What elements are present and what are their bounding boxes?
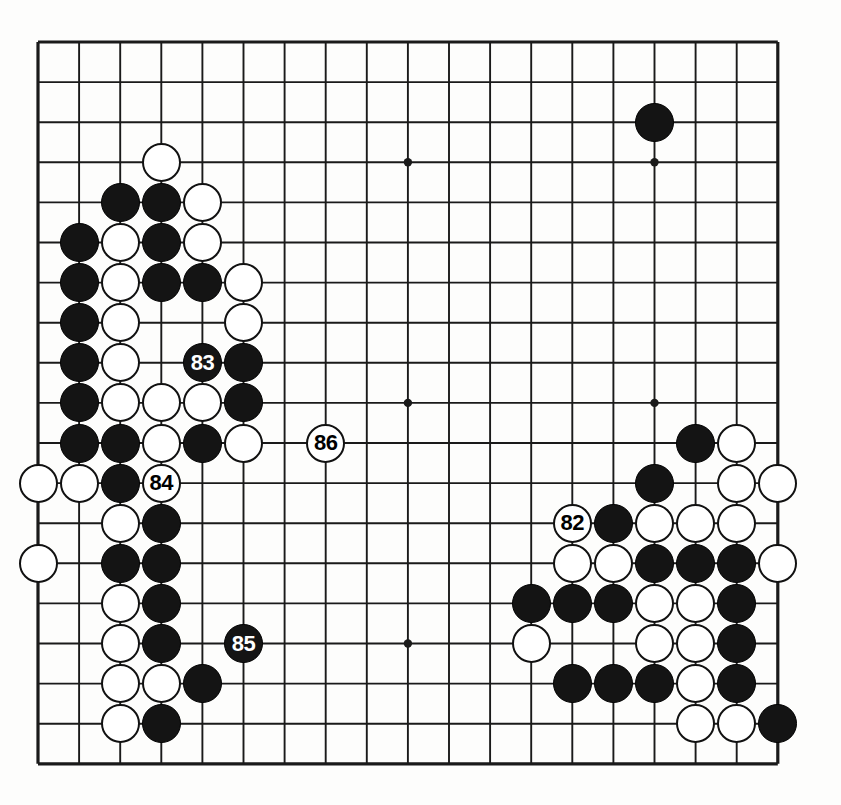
stone-black[interactable] <box>635 664 674 703</box>
star-point <box>650 399 658 407</box>
stone-black[interactable] <box>635 544 674 583</box>
stone-black[interactable] <box>101 544 140 583</box>
stone-white[interactable] <box>101 223 140 262</box>
numbered-stone-83[interactable]: 83 <box>183 343 222 382</box>
go-diagram-root: 8386848285 <box>0 0 841 805</box>
stone-white[interactable] <box>101 624 140 663</box>
stone-white[interactable] <box>635 584 674 623</box>
stone-white[interactable] <box>758 544 797 583</box>
stone-white[interactable] <box>101 664 140 703</box>
stone-white[interactable] <box>101 303 140 342</box>
stone-black[interactable] <box>60 303 99 342</box>
numbered-stone-86[interactable]: 86 <box>306 424 345 463</box>
stone-black[interactable] <box>142 183 181 222</box>
stone-black[interactable] <box>717 544 756 583</box>
stone-white[interactable] <box>676 704 715 743</box>
stone-black[interactable] <box>101 424 140 463</box>
stone-black[interactable] <box>676 424 715 463</box>
stone-white[interactable] <box>60 464 99 503</box>
stone-move-number: 86 <box>308 426 343 461</box>
stone-white[interactable] <box>142 664 181 703</box>
stone-black[interactable] <box>676 544 715 583</box>
stone-black[interactable] <box>594 584 633 623</box>
stone-white[interactable] <box>142 143 181 182</box>
stone-black[interactable] <box>142 223 181 262</box>
stone-white[interactable] <box>717 504 756 543</box>
stone-black[interactable] <box>183 664 222 703</box>
stone-black[interactable] <box>553 584 592 623</box>
stone-white[interactable] <box>224 424 263 463</box>
stone-move-number: 85 <box>225 625 262 662</box>
stone-black[interactable] <box>594 664 633 703</box>
stone-black[interactable] <box>183 424 222 463</box>
stone-move-number: 82 <box>555 506 590 541</box>
stone-black[interactable] <box>60 343 99 382</box>
stone-black[interactable] <box>717 624 756 663</box>
stone-black[interactable] <box>553 664 592 703</box>
star-point <box>650 158 658 166</box>
stone-white[interactable] <box>717 424 756 463</box>
stone-black[interactable] <box>594 504 633 543</box>
stone-black[interactable] <box>142 584 181 623</box>
stone-black[interactable] <box>101 464 140 503</box>
stone-move-number: 83 <box>184 344 221 381</box>
go-board[interactable]: 8386848285 <box>0 0 841 805</box>
stone-black[interactable] <box>142 544 181 583</box>
star-point <box>404 639 412 647</box>
stone-white[interactable] <box>717 464 756 503</box>
stone-black[interactable] <box>101 183 140 222</box>
stone-black[interactable] <box>717 584 756 623</box>
stone-white[interactable] <box>553 544 592 583</box>
numbered-stone-84[interactable]: 84 <box>142 464 181 503</box>
stone-white[interactable] <box>635 624 674 663</box>
stone-white[interactable] <box>101 263 140 302</box>
stone-white[interactable] <box>676 504 715 543</box>
numbered-stone-85[interactable]: 85 <box>224 624 263 663</box>
stone-black[interactable] <box>512 584 551 623</box>
numbered-stone-82[interactable]: 82 <box>553 504 592 543</box>
star-point <box>404 399 412 407</box>
stone-white[interactable] <box>101 383 140 422</box>
stone-white[interactable] <box>224 303 263 342</box>
stone-black[interactable] <box>60 223 99 262</box>
stone-black[interactable] <box>60 383 99 422</box>
stone-white[interactable] <box>676 584 715 623</box>
stone-white[interactable] <box>224 263 263 302</box>
stone-white[interactable] <box>594 544 633 583</box>
stone-black[interactable] <box>717 664 756 703</box>
stone-black[interactable] <box>142 504 181 543</box>
stone-white[interactable] <box>19 464 58 503</box>
stone-black[interactable] <box>635 464 674 503</box>
stone-white[interactable] <box>101 343 140 382</box>
stone-move-number: 84 <box>144 466 179 501</box>
stone-black[interactable] <box>635 103 674 142</box>
stone-white[interactable] <box>758 464 797 503</box>
stone-white[interactable] <box>183 183 222 222</box>
stone-white[interactable] <box>635 504 674 543</box>
stone-black[interactable] <box>142 263 181 302</box>
stone-white[interactable] <box>142 424 181 463</box>
stone-black[interactable] <box>183 263 222 302</box>
stone-black[interactable] <box>60 263 99 302</box>
stone-black[interactable] <box>142 704 181 743</box>
star-point <box>404 158 412 166</box>
stone-white[interactable] <box>676 664 715 703</box>
stone-white[interactable] <box>101 504 140 543</box>
stone-white[interactable] <box>512 624 551 663</box>
stone-black[interactable] <box>60 424 99 463</box>
stone-white[interactable] <box>183 383 222 422</box>
stone-white[interactable] <box>142 383 181 422</box>
stone-white[interactable] <box>101 704 140 743</box>
stone-black[interactable] <box>142 624 181 663</box>
stone-white[interactable] <box>183 223 222 262</box>
stone-white[interactable] <box>101 584 140 623</box>
stone-white[interactable] <box>676 624 715 663</box>
stone-white[interactable] <box>19 544 58 583</box>
